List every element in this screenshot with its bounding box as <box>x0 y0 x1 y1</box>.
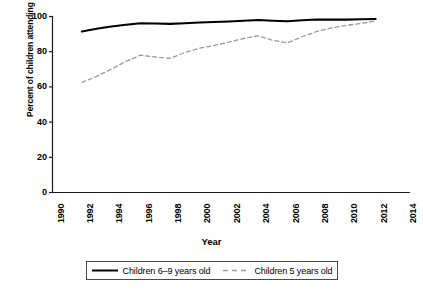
x-axis-title: Year <box>0 236 423 247</box>
series-layer <box>82 19 376 83</box>
series-line-0 <box>82 19 376 32</box>
x-tick-label: 1990 <box>57 203 66 222</box>
x-tick-label: 2004 <box>262 203 271 222</box>
chart-axes <box>52 16 410 193</box>
series-line-1 <box>82 21 376 83</box>
x-tick-label: 2008 <box>321 203 330 222</box>
x-tick-label: 1996 <box>145 203 154 222</box>
x-tick-label: 2006 <box>292 203 301 222</box>
legend-line-dashed-icon <box>223 266 249 275</box>
legend-label-1: Children 5 years old <box>254 266 332 276</box>
y-tick-label: 0 <box>21 188 47 197</box>
y-tick-label: 40 <box>21 118 47 127</box>
x-tick-label: 2014 <box>409 203 418 222</box>
legend-entry-solid: Children 6–9 years old <box>92 262 211 279</box>
legend-label-0: Children 6–9 years old <box>123 266 211 276</box>
chart-figure: Percent of children attending school 020… <box>0 0 423 290</box>
x-tick-label: 1994 <box>115 203 124 222</box>
y-tick-label: 20 <box>21 153 47 162</box>
x-tick-label: 1998 <box>174 203 183 222</box>
chart-legend: Children 6–9 years old Children 5 years … <box>86 261 338 280</box>
x-tick-label: 2012 <box>380 203 389 222</box>
y-tick-label: 100 <box>21 12 47 21</box>
legend-line-solid-icon <box>92 266 118 275</box>
x-tick-label: 2010 <box>350 203 359 222</box>
x-tick-label: 2002 <box>233 203 242 222</box>
x-tick-label: 1992 <box>86 203 95 222</box>
y-tick-label: 80 <box>21 47 47 56</box>
legend-entry-dashed: Children 5 years old <box>223 262 332 279</box>
x-tick-label: 2000 <box>203 203 212 222</box>
y-tick-label: 60 <box>21 82 47 91</box>
